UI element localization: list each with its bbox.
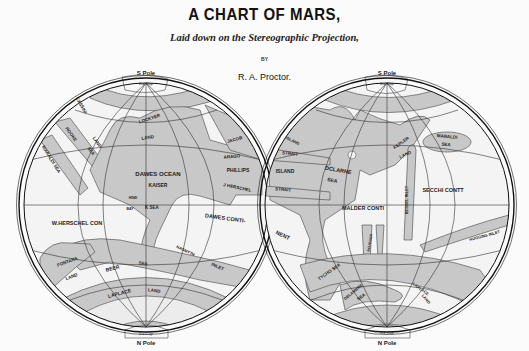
- region-label-kaiser: KAISER: [149, 182, 168, 188]
- east-bottom-pole-label: N Pole: [378, 340, 397, 346]
- west-top-cap-label: Ice Cap: [138, 81, 154, 86]
- region-label-hind: HIND: [129, 196, 138, 200]
- region-label-secchi-contt: SECCHI CONTT: [422, 187, 464, 193]
- region-label-w-herschel-con: W.HERSCHEL CON: [52, 220, 102, 226]
- region-label-island: ISLAND: [276, 168, 295, 174]
- region-label-malder-conti: MALDER CONTI: [342, 205, 385, 211]
- west-bottom-pole-label: N Pole: [137, 340, 156, 346]
- west-top-pole-label: S Pole: [137, 70, 156, 76]
- east-bottom-cap-label: Ice Cap: [379, 330, 395, 335]
- west-bottom-cap-label: Ice Cap: [138, 331, 154, 336]
- region-label-dawes-ocean: DAWES OCEAN: [135, 171, 180, 177]
- region-label-bessel-inlet: BESSEL INLET: [404, 185, 409, 214]
- east-top-pole-label: S Pole: [378, 70, 397, 76]
- region-label-bay: BAY: [126, 207, 134, 211]
- mars-map: S Pole Ice Cap N Pole Ice Cap S Pole Ice…: [0, 0, 529, 351]
- east-hemisphere: [258, 75, 517, 340]
- region-label-phillips: PHILLIPS: [227, 167, 250, 173]
- region-label-k-sea: K SEA: [145, 205, 160, 210]
- east-top-cap-label: Ice Cap: [379, 81, 395, 86]
- region-label-sea: SEA: [441, 142, 451, 148]
